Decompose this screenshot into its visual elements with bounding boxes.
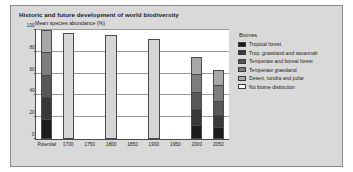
bar-segment[interactable]: [42, 76, 51, 98]
bar-slot: Potential: [36, 30, 57, 139]
x-tick-label: 1750: [84, 142, 95, 147]
plot-area: 020406080100 Potential170017501800185019…: [35, 30, 229, 140]
chart-legend: Biomes Tropical forestTrop. grassland an…: [238, 32, 338, 93]
legend-entries: Tropical forestTrop. grassland and savan…: [238, 41, 338, 90]
legend-swatch: [238, 84, 246, 89]
legend-label: Trop. grassland and savannah: [249, 50, 318, 56]
legend-label: No biome distinction: [249, 84, 295, 90]
legend-entry[interactable]: Temperate and boreal forest: [238, 58, 338, 64]
bar-slot: 1700: [57, 30, 78, 139]
bar-segment[interactable]: [192, 93, 201, 110]
legend-entry[interactable]: Tropical forest: [238, 41, 338, 47]
bar-segment[interactable]: [214, 116, 223, 129]
legend-label: Temperate grassland: [249, 67, 297, 73]
y-axis-label: Mean species abundance (%): [35, 20, 105, 26]
bar-slot: 1900: [143, 30, 164, 139]
legend-label: Temperate and boreal forest: [249, 58, 313, 64]
bar-segment[interactable]: [192, 126, 201, 138]
legend-swatch: [238, 42, 246, 47]
bar-segment[interactable]: [149, 40, 158, 138]
x-tick-label: 2000: [191, 142, 202, 147]
y-tick-label: 100: [27, 23, 35, 28]
legend-label: Tropical forest: [249, 41, 281, 47]
bar[interactable]: [63, 33, 74, 139]
bar-slot: 1750: [79, 30, 100, 139]
bar-segment[interactable]: [64, 34, 73, 138]
bar-slot: 1850: [122, 30, 143, 139]
x-tick-label: 1800: [106, 142, 117, 147]
bar-segment[interactable]: [192, 110, 201, 126]
legend-swatch: [238, 76, 246, 81]
bar-segment[interactable]: [192, 75, 201, 93]
legend-entry[interactable]: Temperate grassland: [238, 67, 338, 73]
legend-title: Biomes: [238, 32, 338, 38]
y-tick-label: 80: [29, 44, 34, 49]
y-tick-label: 40: [29, 88, 34, 93]
bar[interactable]: [191, 57, 202, 139]
x-tick-label: 1900: [149, 142, 160, 147]
legend-entry[interactable]: No biome distinction: [238, 84, 338, 90]
x-tick-label: Potential: [37, 142, 56, 147]
bar-group: Potential1700175018001850190019502000205…: [36, 30, 229, 139]
bar[interactable]: [148, 39, 159, 139]
legend-swatch: [238, 59, 246, 64]
y-tick-label: 0: [32, 132, 35, 137]
x-tick-label: 1700: [63, 142, 74, 147]
bar-slot: 1800: [100, 30, 121, 139]
bar-slot: 2000: [186, 30, 207, 139]
bar-segment[interactable]: [214, 86, 223, 102]
y-tick-label: 60: [29, 66, 34, 71]
x-tick-label: 2050: [213, 142, 224, 147]
chart-figure: Historic and future development of world…: [10, 5, 343, 167]
chart-title: Historic and future development of world…: [19, 11, 179, 18]
bar-segment[interactable]: [106, 36, 115, 138]
bar-segment[interactable]: [214, 128, 223, 138]
bar-segment[interactable]: [214, 102, 223, 116]
legend-swatch: [238, 67, 246, 72]
bar-segment[interactable]: [42, 53, 51, 75]
bar-segment[interactable]: [192, 58, 201, 75]
bar[interactable]: [105, 35, 116, 139]
bar[interactable]: [213, 70, 224, 139]
bar[interactable]: [41, 30, 52, 139]
legend-entry[interactable]: Desert, tundra and polar: [238, 75, 338, 81]
bar-segment[interactable]: [42, 31, 51, 53]
bar-segment[interactable]: [42, 98, 51, 119]
plot-container: Mean species abundance (%) 020406080100 …: [25, 20, 229, 152]
legend-swatch: [238, 50, 246, 55]
legend-label: Desert, tundra and polar: [249, 75, 304, 81]
x-tick-label: 1950: [170, 142, 181, 147]
legend-entry[interactable]: Trop. grassland and savannah: [238, 50, 338, 56]
bar-slot: 2050: [208, 30, 229, 139]
x-tick-label: 1850: [127, 142, 138, 147]
bar-segment[interactable]: [42, 120, 51, 138]
bar-segment[interactable]: [214, 71, 223, 86]
bar-slot: 1950: [165, 30, 186, 139]
y-tick-label: 20: [29, 110, 34, 115]
